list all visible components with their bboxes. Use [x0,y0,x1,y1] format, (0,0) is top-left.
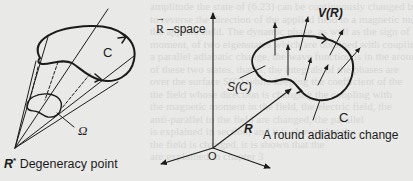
caption-adiabatic-change: A round adiabatic change [263,128,398,142]
loop-arrow-icon [296,85,302,93]
degeneracy-point-label: R* Degeneracy point [4,156,118,171]
loop-label-right: C [339,110,348,125]
diagram-canvas: amplitude the state of (6.23) can be con… [0,0,413,181]
diagram-drawing [0,0,413,181]
field-vector [318,65,328,85]
solid-angle-loop [27,94,61,117]
field-vector [305,58,311,80]
solid-angle-label: Ω [78,123,87,139]
field-vector [330,30,343,55]
loop-figure-right [240,17,360,120]
loop-label-left: C [103,45,112,60]
loop-arrow-icon [317,34,327,43]
loop-c-left [38,26,135,81]
space-vector-symbol: → R [156,22,167,36]
position-vector-label: R [244,122,253,136]
field-label: V(R) [318,6,343,20]
apex-superscript: * [13,156,16,165]
y-axis [213,148,270,168]
parameter-space-label: → R –space [156,22,206,37]
vector-arrow-icon: → [156,13,165,23]
x-axis [161,148,213,164]
field-vector [300,17,308,50]
apex-caption: Degeneracy point [20,157,118,171]
apex-symbol: R [4,157,13,171]
origin-label: O [208,150,217,162]
loop-c-right [252,36,353,100]
cone-figure [15,9,135,148]
space-text: –space [167,22,206,36]
surface-label: S(C) [227,80,252,94]
